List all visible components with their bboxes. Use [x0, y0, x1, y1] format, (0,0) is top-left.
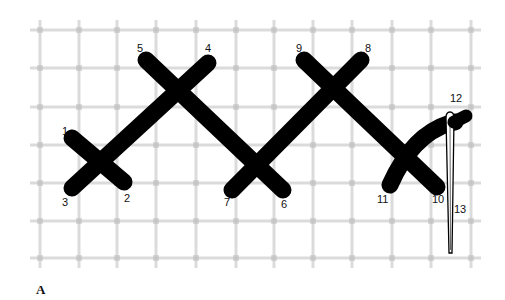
- grid-intersection: [310, 142, 316, 148]
- grid-intersection: [114, 104, 120, 110]
- point-label-3: 3: [62, 196, 68, 208]
- grid-intersection: [468, 65, 474, 71]
- grid-intersection: [233, 218, 239, 224]
- figure-caption: A: [36, 282, 46, 297]
- grid-intersection: [349, 180, 355, 186]
- grid-intersection: [153, 180, 159, 186]
- point-label-1: 1: [62, 125, 68, 137]
- grid-intersection: [468, 27, 474, 33]
- grid-intersection: [233, 27, 239, 33]
- stitch-3-4: [72, 63, 208, 188]
- grid-intersection: [114, 255, 120, 261]
- grid-intersection: [428, 104, 434, 110]
- grid-intersection: [310, 255, 316, 261]
- thread-tail: [454, 116, 466, 122]
- grid-intersection: [76, 27, 82, 33]
- grid-intersection: [193, 27, 199, 33]
- grid-intersection: [349, 142, 355, 148]
- point-label-10: 10: [432, 193, 444, 205]
- grid-intersection: [271, 255, 277, 261]
- grid-intersection: [389, 255, 395, 261]
- stitches: [72, 60, 455, 190]
- grid-intersection: [468, 180, 474, 186]
- grid-intersection: [37, 27, 43, 33]
- grid-intersection: [37, 180, 43, 186]
- grid-intersection: [389, 104, 395, 110]
- stitch-7-8: [232, 60, 361, 190]
- grid-intersection: [468, 104, 474, 110]
- grid-intersection: [233, 65, 239, 71]
- grid-intersection: [114, 27, 120, 33]
- grid-intersection: [310, 218, 316, 224]
- grid-intersection: [468, 218, 474, 224]
- point-label-11: 11: [377, 193, 388, 205]
- point-label-5: 5: [137, 42, 143, 54]
- grid-intersection: [37, 218, 43, 224]
- point-label-9: 9: [296, 42, 302, 54]
- grid-intersection: [271, 218, 277, 224]
- point-label-12: 12: [450, 92, 462, 104]
- grid-intersection: [153, 255, 159, 261]
- point-label-13: 13: [454, 203, 466, 215]
- grid-intersection: [349, 255, 355, 261]
- grid-intersection: [37, 104, 43, 110]
- grid-intersection: [349, 218, 355, 224]
- grid-intersection: [153, 142, 159, 148]
- grid-intersection: [76, 104, 82, 110]
- point-label-8: 8: [365, 42, 371, 54]
- grid-intersection: [310, 27, 316, 33]
- point-label-7: 7: [224, 196, 230, 208]
- grid-intersection: [389, 218, 395, 224]
- grid-intersection: [428, 218, 434, 224]
- grid-intersection: [428, 27, 434, 33]
- grid-intersection: [193, 218, 199, 224]
- grid-intersection: [271, 65, 277, 71]
- grid-intersection: [271, 27, 277, 33]
- stitch-9-10: [304, 60, 437, 187]
- grid-intersection: [153, 27, 159, 33]
- grid-intersection: [193, 142, 199, 148]
- grid-intersection: [114, 65, 120, 71]
- grid-intersection: [233, 104, 239, 110]
- grid-intersection: [310, 180, 316, 186]
- grid-intersection: [233, 255, 239, 261]
- grid-intersection: [193, 255, 199, 261]
- grid-intersection: [271, 104, 277, 110]
- grid-intersection: [114, 218, 120, 224]
- herringbone-stitch-diagram: 12345678910111213 A: [0, 0, 505, 300]
- needle-icon: [446, 112, 454, 253]
- grid-intersection: [76, 218, 82, 224]
- grid-intersection: [468, 255, 474, 261]
- grid-intersection: [468, 142, 474, 148]
- point-label-2: 2: [124, 192, 130, 204]
- grid-intersection: [37, 255, 43, 261]
- grid-intersection: [37, 142, 43, 148]
- grid-intersection: [349, 27, 355, 33]
- point-label-6: 6: [281, 198, 287, 210]
- grid-intersection: [37, 65, 43, 71]
- grid-intersection: [76, 65, 82, 71]
- grid-intersection: [428, 255, 434, 261]
- grid-intersection: [193, 180, 199, 186]
- grid-intersection: [389, 65, 395, 71]
- grid-intersection: [428, 65, 434, 71]
- grid-intersection: [389, 27, 395, 33]
- grid-intersection: [76, 255, 82, 261]
- grid-intersection: [153, 218, 159, 224]
- point-label-4: 4: [205, 42, 211, 54]
